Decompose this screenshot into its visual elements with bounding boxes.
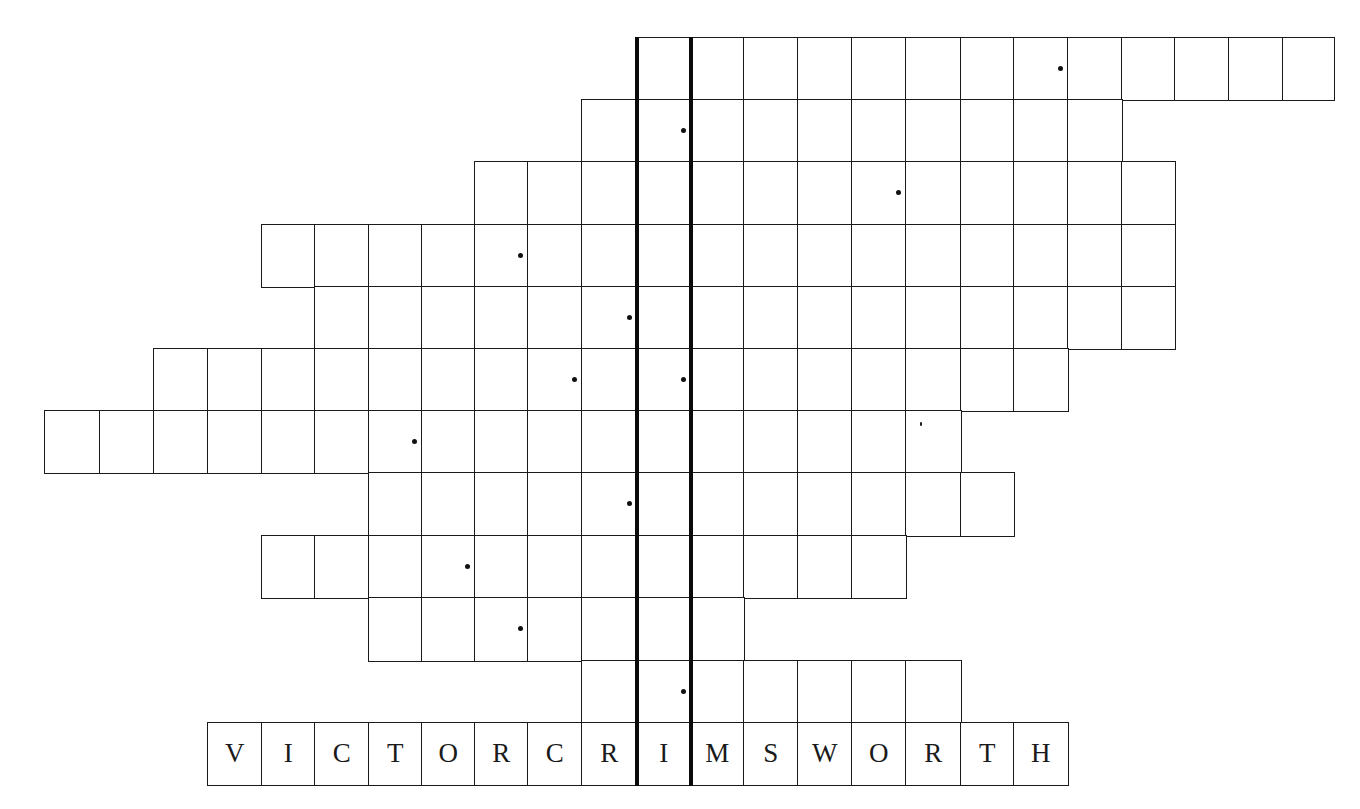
grid-cell[interactable]	[960, 348, 1015, 412]
grid-cell[interactable]	[1067, 37, 1123, 101]
grid-cell[interactable]	[527, 224, 583, 288]
grid-cell[interactable]	[636, 472, 692, 537]
grid-cell[interactable]	[1013, 161, 1069, 226]
grid-cell[interactable]	[905, 99, 962, 163]
grid-cell[interactable]	[797, 286, 853, 350]
grid-cell[interactable]	[261, 348, 316, 412]
grid-cell[interactable]	[851, 37, 907, 101]
grid-cell[interactable]	[314, 348, 370, 412]
grid-cell[interactable]	[1067, 286, 1123, 350]
grid-cell[interactable]	[851, 535, 907, 599]
grid-cell[interactable]	[581, 224, 638, 288]
grid-cell[interactable]: S	[743, 722, 799, 786]
grid-cell[interactable]	[527, 597, 583, 662]
grid-cell[interactable]	[474, 224, 529, 288]
grid-cell[interactable]	[636, 37, 692, 101]
grid-cell[interactable]	[368, 597, 423, 662]
grid-cell[interactable]	[474, 472, 529, 537]
grid-cell[interactable]	[905, 472, 962, 537]
grid-cell[interactable]	[99, 410, 155, 474]
grid-cell[interactable]: V	[207, 722, 263, 786]
grid-cell[interactable]	[636, 224, 692, 288]
grid-cell[interactable]	[153, 410, 209, 474]
grid-cell[interactable]	[905, 660, 962, 724]
grid-cell[interactable]	[1121, 161, 1176, 226]
grid-cell[interactable]	[690, 286, 745, 350]
grid-cell[interactable]	[851, 161, 907, 226]
grid-cell[interactable]	[1013, 37, 1069, 101]
grid-cell[interactable]	[1174, 37, 1230, 101]
grid-cell[interactable]	[207, 410, 263, 474]
grid-cell[interactable]	[690, 99, 745, 163]
grid-cell[interactable]	[207, 348, 263, 412]
grid-cell[interactable]	[960, 472, 1015, 537]
grid-cell[interactable]: T	[368, 722, 423, 786]
grid-cell[interactable]	[474, 161, 529, 226]
grid-cell[interactable]	[690, 597, 745, 662]
grid-cell[interactable]	[261, 535, 316, 599]
grid-cell[interactable]	[527, 410, 583, 474]
grid-cell[interactable]	[905, 410, 962, 474]
grid-cell[interactable]	[636, 535, 692, 599]
grid-cell[interactable]: W	[797, 722, 853, 786]
grid-cell[interactable]	[581, 472, 638, 537]
grid-cell[interactable]	[527, 161, 583, 226]
grid-cell[interactable]	[581, 161, 638, 226]
grid-cell[interactable]	[743, 99, 799, 163]
grid-cell[interactable]	[474, 348, 529, 412]
grid-cell[interactable]	[743, 660, 799, 724]
grid-cell[interactable]	[743, 224, 799, 288]
grid-cell[interactable]	[851, 410, 907, 474]
grid-cell[interactable]	[44, 410, 101, 474]
grid-cell[interactable]: H	[1013, 722, 1069, 786]
grid-cell[interactable]	[421, 597, 476, 662]
grid-cell[interactable]	[368, 535, 423, 599]
grid-cell[interactable]	[474, 410, 529, 474]
grid-cell[interactable]	[153, 348, 209, 412]
grid-cell[interactable]: O	[851, 722, 907, 786]
grid-cell[interactable]	[851, 348, 907, 412]
grid-cell[interactable]	[474, 535, 529, 599]
grid-cell[interactable]	[690, 161, 745, 226]
grid-cell[interactable]	[960, 224, 1015, 288]
grid-cell[interactable]	[1013, 286, 1069, 350]
grid-cell[interactable]: T	[960, 722, 1015, 786]
grid-cell[interactable]	[636, 597, 692, 662]
grid-cell[interactable]	[690, 660, 745, 724]
grid-cell[interactable]	[743, 535, 799, 599]
grid-cell[interactable]	[368, 410, 423, 474]
grid-cell[interactable]	[636, 348, 692, 412]
grid-cell[interactable]	[527, 286, 583, 350]
grid-cell[interactable]	[1013, 224, 1069, 288]
grid-cell[interactable]	[368, 348, 423, 412]
grid-cell[interactable]	[1067, 99, 1123, 163]
grid-cell[interactable]	[581, 410, 638, 474]
grid-cell[interactable]	[690, 348, 745, 412]
grid-cell[interactable]	[581, 660, 638, 724]
grid-cell[interactable]	[314, 286, 370, 350]
grid-cell[interactable]	[851, 660, 907, 724]
grid-cell[interactable]	[1282, 37, 1335, 101]
grid-cell[interactable]	[905, 348, 962, 412]
grid-cell[interactable]	[797, 410, 853, 474]
grid-cell[interactable]	[421, 535, 476, 599]
grid-cell[interactable]	[368, 224, 423, 288]
grid-cell[interactable]	[421, 348, 476, 412]
grid-cell[interactable]	[905, 224, 962, 288]
grid-cell[interactable]	[905, 37, 962, 101]
grid-cell[interactable]	[636, 410, 692, 474]
grid-cell[interactable]	[797, 472, 853, 537]
grid-cell[interactable]	[797, 535, 853, 599]
grid-cell[interactable]	[1228, 37, 1284, 101]
grid-cell[interactable]	[905, 286, 962, 350]
grid-cell[interactable]	[1121, 37, 1176, 101]
grid-cell[interactable]	[690, 472, 745, 537]
grid-cell[interactable]	[743, 410, 799, 474]
grid-cell[interactable]	[690, 224, 745, 288]
grid-cell[interactable]	[851, 472, 907, 537]
grid-cell[interactable]	[527, 472, 583, 537]
grid-cell[interactable]	[636, 99, 692, 163]
grid-cell[interactable]: R	[581, 722, 638, 786]
grid-cell[interactable]	[797, 224, 853, 288]
grid-cell[interactable]: I	[636, 722, 692, 786]
